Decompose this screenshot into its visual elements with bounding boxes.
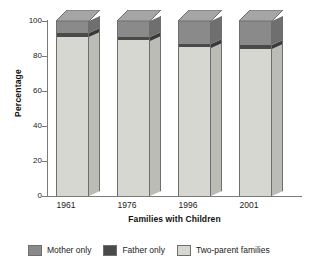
x-tick-label-1976: 1976: [97, 200, 157, 210]
y-tick-mark-80: [42, 56, 47, 57]
y-tick-mark-0: [42, 196, 47, 197]
y-tick-label-80: 80: [22, 52, 42, 60]
bar-top-cap: [178, 10, 222, 22]
bar-1976: [117, 0, 161, 196]
x-axis-title: Families with Children: [47, 214, 302, 224]
legend-label-father-only: Father only: [122, 245, 165, 255]
bar-segment-two-parent-families: [117, 40, 150, 196]
y-tick-mark-20: [42, 161, 47, 162]
y-tick-label-60: 60: [22, 87, 42, 95]
stacked-bar-chart: Percentage 100 80 60 40 20 0 1961 1976 1…: [0, 0, 318, 271]
y-axis-line: [47, 20, 48, 197]
bar-segment-father-only: [239, 45, 272, 49]
legend-label-two-parent-families: Two-parent families: [196, 245, 270, 255]
y-tick-label-0: 0: [22, 192, 42, 200]
bar-segment-two-parent-families: [178, 47, 211, 196]
x-tick-label-1961: 1961: [36, 200, 96, 210]
y-tick-label-40: 40: [22, 122, 42, 130]
legend-label-mother-only: Mother only: [47, 245, 91, 255]
bar-segment-two-parent-families: [56, 37, 89, 196]
bar-1996: [178, 0, 222, 196]
y-tick-label-100: 100: [22, 17, 42, 25]
bar-1961: [56, 0, 100, 196]
legend-item-two-parent-families: Two-parent families: [177, 245, 270, 256]
bar-top-cap: [56, 10, 100, 22]
bar-segment-father-only: [178, 44, 211, 48]
x-tick-label-2001: 2001: [219, 200, 279, 210]
y-tick-label-20: 20: [22, 157, 42, 165]
y-axis-tick-labels: 100 80 60 40 20 0: [16, 0, 42, 271]
bar-2001: [239, 0, 283, 196]
bar-segment-mother-only: [239, 21, 272, 45]
bar-segment-father-only: [117, 37, 150, 41]
bar-top-cap: [117, 10, 161, 22]
chart-legend: Mother only Father only Two-parent famil…: [28, 243, 298, 257]
y-tick-mark-40: [42, 126, 47, 127]
y-tick-mark-100: [42, 21, 47, 22]
x-tick-label-1996: 1996: [158, 200, 218, 210]
bar-segment-father-only: [56, 33, 89, 37]
legend-swatch-mother-only: [28, 245, 42, 256]
legend-item-mother-only: Mother only: [28, 245, 91, 256]
legend-item-father-only: Father only: [103, 245, 165, 256]
bar-segment-mother-only: [117, 21, 150, 37]
bar-segment-mother-only: [178, 21, 211, 44]
legend-swatch-two-parent-families: [177, 245, 191, 256]
y-tick-mark-60: [42, 91, 47, 92]
x-axis-line: [47, 196, 302, 197]
bar-top-cap: [239, 10, 283, 22]
bar-segment-mother-only: [56, 21, 89, 33]
legend-swatch-father-only: [103, 245, 117, 256]
bar-segment-two-parent-families: [239, 49, 272, 196]
